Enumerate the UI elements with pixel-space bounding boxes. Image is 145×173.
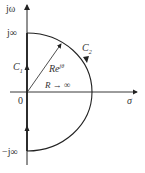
contour-diagram [0, 0, 145, 173]
real-axis-label: σ [127, 96, 132, 106]
c2-label: C2 [82, 43, 92, 53]
c2-arrow [83, 56, 89, 63]
imaginary-axis-label: jω [6, 4, 15, 14]
c1-arrow-lower [25, 125, 30, 131]
c1-letter: C [13, 61, 20, 72]
top-infinity-label: j∞ [7, 28, 17, 38]
bottom-infinity-label: −j∞ [2, 147, 18, 157]
radius-label: Rejθ [49, 64, 64, 74]
c1-label: C1 [13, 62, 23, 72]
origin-label: 0 [18, 96, 23, 106]
radius-text: Re [49, 63, 60, 74]
c2-subscript: 2 [89, 49, 92, 55]
c1-arrow-upper [25, 64, 30, 70]
radius-limit-label: R → ∞ [45, 80, 70, 90]
c2-letter: C [82, 42, 89, 53]
radius-exponent: jθ [60, 63, 65, 69]
c1-subscript: 1 [20, 68, 23, 74]
